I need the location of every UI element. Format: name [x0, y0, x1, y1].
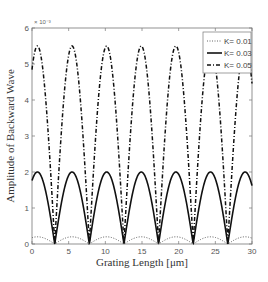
legend-label-k003: K= 0.03	[224, 49, 252, 58]
legend-label-k001: K= 0.01	[224, 37, 252, 46]
x-axis-title: Grating Length [μm]	[96, 256, 188, 268]
x-tick-label: 0	[30, 247, 35, 256]
x-tick-label: 15	[138, 247, 147, 256]
y-tick-label: 6	[25, 24, 30, 33]
legend: K= 0.01 K= 0.03 K= 0.05	[203, 32, 252, 73]
y-tick-label: 2	[25, 168, 30, 177]
x-tick-label: 20	[174, 247, 183, 256]
y-tick-label: 5	[25, 60, 30, 69]
x-tick-label: 30	[248, 247, 257, 256]
y-axis-title: Amplitude of Backward Wave	[4, 69, 16, 203]
y-exponent-label: × 10⁻³	[34, 19, 51, 25]
x-tick-label: 5	[66, 247, 71, 256]
y-tick-label: 1	[25, 204, 30, 213]
chart: 051015202530 0123456 × 10⁻³ Grating Leng…	[0, 0, 268, 282]
x-tick-label: 25	[211, 247, 220, 256]
y-tick-label: 0	[25, 240, 30, 249]
y-tick-label: 3	[25, 132, 30, 141]
legend-label-k005: K= 0.05	[224, 61, 252, 70]
x-tick-label: 10	[101, 247, 110, 256]
y-tick-label: 4	[25, 96, 30, 105]
